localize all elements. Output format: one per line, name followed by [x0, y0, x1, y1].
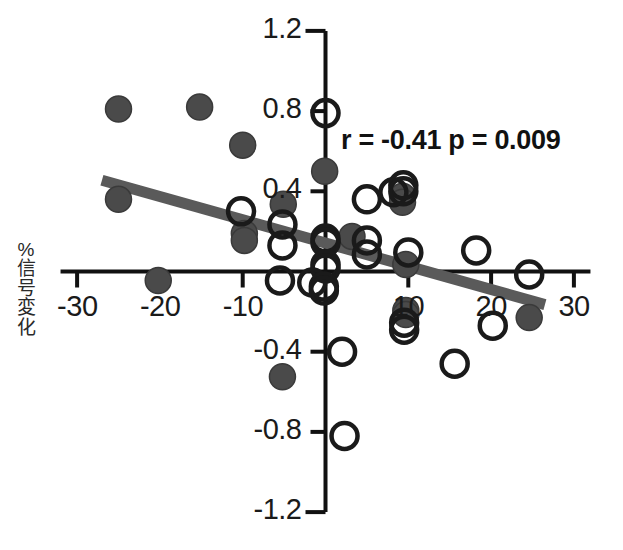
scatter-plot-figure: %信号変化 r = -0.41 p = 0.009 -30-20-1010203…: [0, 0, 623, 550]
y-tick-label: 0.4: [263, 172, 302, 205]
y-axis-label-char: 変: [6, 298, 46, 317]
data-point-filled: [312, 158, 338, 184]
y-tick-label: 0.8: [263, 92, 302, 125]
x-tick-label: -30: [57, 290, 97, 323]
y-axis-label-char: 化: [6, 318, 46, 337]
correlation-annotation: r = -0.41 p = 0.009: [341, 125, 560, 156]
data-point-open: [463, 237, 489, 263]
y-axis-label-char: %: [6, 240, 46, 259]
data-point-filled: [187, 94, 213, 120]
data-point-open: [332, 423, 358, 449]
data-point-open: [442, 351, 468, 377]
y-tick-label: -0.4: [254, 333, 302, 366]
data-point-filled: [230, 132, 256, 158]
data-point-filled: [269, 364, 295, 390]
y-axis-label-char: 信: [6, 259, 46, 278]
data-point-open: [354, 186, 380, 212]
x-tick-label: 10: [393, 290, 424, 323]
data-point-filled: [106, 186, 132, 212]
data-point-open: [329, 339, 355, 365]
plot-canvas: [0, 0, 623, 550]
y-axis-label-char: 号: [6, 279, 46, 298]
y-axis-label: %信号変化: [6, 240, 46, 337]
y-tick-label: -0.8: [254, 413, 302, 446]
x-tick-label: -20: [140, 290, 180, 323]
data-point-filled: [516, 305, 542, 331]
x-tick-label: 30: [558, 290, 589, 323]
data-point-open: [516, 262, 542, 288]
data-point-filled: [106, 96, 132, 122]
y-tick-label: 1.2: [263, 12, 302, 45]
x-tick-label: 20: [476, 290, 507, 323]
data-point-filled: [231, 227, 257, 253]
y-tick-label: -1.2: [254, 493, 302, 526]
x-tick-label: -10: [223, 290, 263, 323]
